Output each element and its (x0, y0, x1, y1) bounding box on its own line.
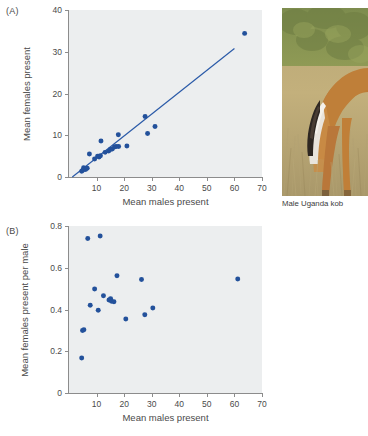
x-tick (234, 177, 235, 181)
male-uganda-kob-photo (282, 8, 368, 196)
y-tick (65, 52, 69, 53)
data-point (145, 131, 150, 136)
scatter-points-b (69, 226, 262, 393)
data-point (142, 312, 147, 317)
x-tick-label: 30 (147, 183, 156, 193)
y-tick-label: 20 (53, 89, 62, 99)
x-tick (179, 177, 180, 181)
y-axis-title-b: Mean females present per male (19, 243, 30, 377)
x-tick-label: 10 (92, 399, 101, 409)
data-point (143, 114, 148, 119)
data-point (111, 299, 116, 304)
data-point (139, 277, 144, 282)
x-tick-label: 70 (257, 399, 266, 409)
data-point (87, 152, 92, 157)
x-tick (152, 393, 153, 397)
x-tick (262, 393, 263, 397)
y-axis-title-a: Mean females present (21, 47, 32, 141)
data-point (124, 144, 129, 149)
data-point (79, 355, 84, 360)
x-tick-label: 20 (119, 183, 128, 193)
y-tick (65, 310, 69, 311)
data-point (242, 31, 247, 36)
y-tick (65, 351, 69, 352)
x-tick (97, 393, 98, 397)
x-tick-label: 20 (119, 399, 128, 409)
data-point (81, 327, 86, 332)
data-point (114, 273, 119, 278)
data-point (98, 234, 103, 239)
data-point (96, 308, 101, 313)
x-axis-title-a: Mean males present (122, 196, 208, 207)
y-tick-label: 0.4 (50, 305, 62, 315)
y-tick-label: 0 (57, 172, 62, 182)
x-tick-label: 30 (147, 399, 156, 409)
y-tick (65, 10, 69, 11)
y-tick-label: 0.6 (50, 263, 62, 273)
figure-kob-scatterplots: (A) Mean males present 01020304010203040… (0, 0, 368, 436)
data-point (98, 153, 103, 158)
y-tick-label: 10 (53, 130, 62, 140)
y-tick (65, 393, 69, 394)
data-point (150, 306, 155, 311)
y-tick (65, 94, 69, 95)
y-tick-label: 0 (57, 388, 62, 398)
x-tick (152, 177, 153, 181)
data-point (85, 166, 90, 171)
data-point (116, 144, 121, 149)
data-point (85, 236, 90, 241)
data-point (153, 124, 158, 129)
photo-block: Male Uganda kob (282, 8, 368, 213)
panel-a-label: (A) (6, 6, 19, 16)
y-tick-label: 0.8 (50, 221, 62, 231)
x-tick-label: 50 (202, 399, 211, 409)
data-point (98, 139, 103, 144)
x-tick (262, 177, 263, 181)
data-point (92, 287, 97, 292)
y-tick-label: 40 (53, 5, 62, 15)
x-tick-label: 40 (175, 399, 184, 409)
x-tick (207, 393, 208, 397)
y-tick (65, 268, 69, 269)
x-tick-label: 40 (175, 183, 184, 193)
x-tick (234, 393, 235, 397)
data-point (88, 303, 93, 308)
y-tick (65, 177, 69, 178)
data-point (123, 317, 128, 322)
y-tick-label: 30 (53, 47, 62, 57)
x-tick (207, 177, 208, 181)
data-point (116, 132, 121, 137)
panel-b: (B) Mean males present 00.20.40.60.81020… (0, 210, 272, 436)
x-tick-label: 70 (257, 183, 266, 193)
x-tick-label: 10 (92, 183, 101, 193)
x-tick-label: 60 (230, 183, 239, 193)
x-axis-title-b: Mean males present (122, 412, 208, 423)
scatter-points-a (69, 10, 262, 177)
panel-b-label: (B) (6, 226, 19, 236)
data-point (235, 277, 240, 282)
x-tick (124, 177, 125, 181)
y-tick (65, 135, 69, 136)
plot-area-b: Mean males present 00.20.40.60.810203040… (68, 226, 262, 394)
kob-photo-illustration (282, 8, 368, 196)
x-tick (179, 393, 180, 397)
y-tick (65, 226, 69, 227)
x-tick (124, 393, 125, 397)
panel-a: (A) Mean males present 01020304010203040… (0, 0, 272, 210)
x-tick-label: 50 (202, 183, 211, 193)
data-point (101, 293, 106, 298)
y-tick-label: 0.2 (50, 346, 62, 356)
photo-caption: Male Uganda kob (282, 198, 368, 209)
plot-area-a: Mean males present 010203040102030405060… (68, 10, 262, 178)
x-tick (97, 177, 98, 181)
x-tick-label: 60 (230, 399, 239, 409)
